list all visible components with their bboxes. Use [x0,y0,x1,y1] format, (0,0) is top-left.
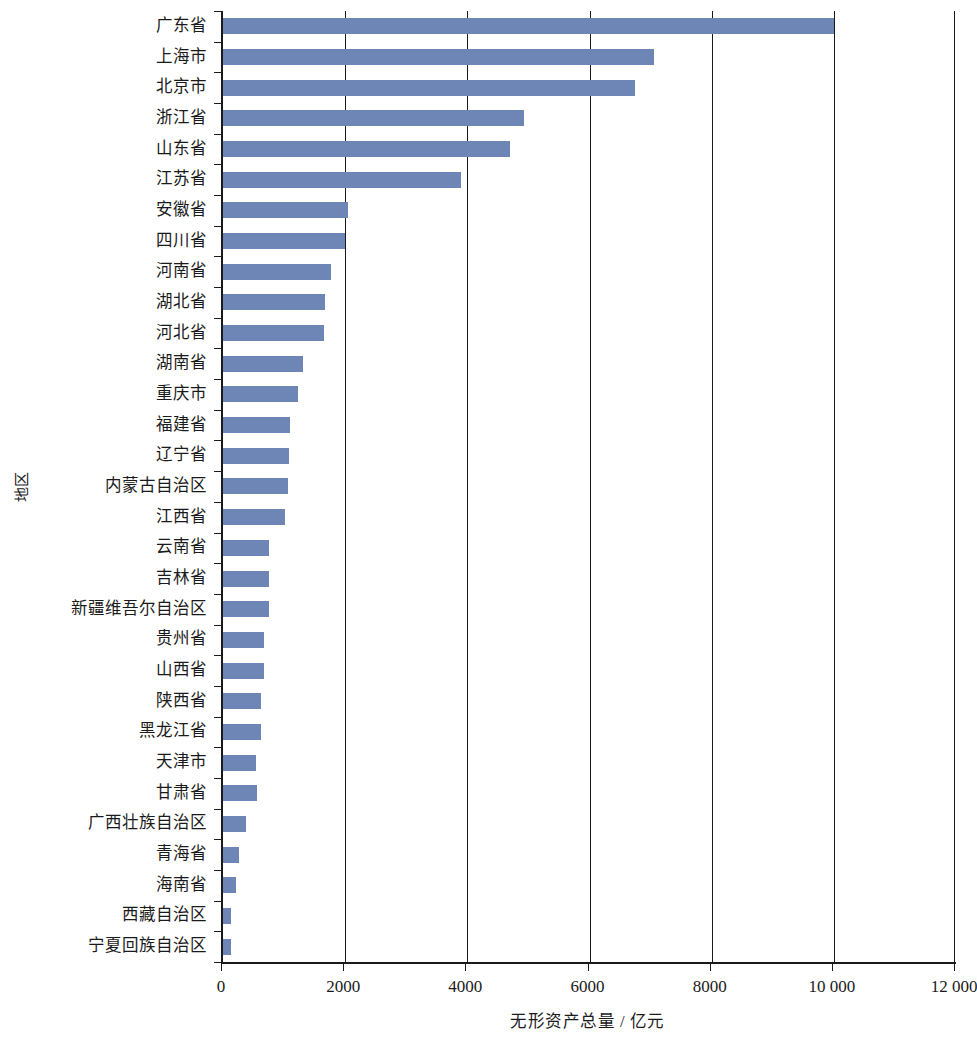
x-axis-tick [588,962,589,971]
y-axis-tick [214,839,223,840]
x-axis-tick-label: 6000 [571,977,605,997]
bar[interactable] [223,49,654,65]
y-axis-tick [214,226,223,227]
bar[interactable] [223,202,348,218]
y-axis-tick [214,348,223,349]
bar[interactable] [223,172,461,188]
category-label: 新疆维吾尔自治区 [17,601,207,618]
bar-row[interactable] [223,594,956,625]
bar-row[interactable] [223,901,956,932]
bar-row[interactable] [223,931,956,962]
bar[interactable] [223,724,261,740]
x-axis-line [221,962,956,964]
y-axis-tick [214,72,223,73]
bar-row[interactable] [223,72,956,103]
x-axis-tick-label: 10 000 [808,977,855,997]
bar-row[interactable] [223,563,956,594]
bar-row[interactable] [223,440,956,471]
x-axis-tick [343,962,344,971]
bar-row[interactable] [223,287,956,318]
bar-row[interactable] [223,103,956,134]
bar[interactable] [223,294,325,310]
bar[interactable] [223,816,246,832]
bar-row[interactable] [223,471,956,502]
bar[interactable] [223,264,331,280]
bar-row[interactable] [223,11,956,42]
bar[interactable] [223,785,257,801]
bar[interactable] [223,571,269,587]
category-label: 陕西省 [17,693,207,710]
bar[interactable] [223,663,264,679]
bar-row[interactable] [223,839,956,870]
bar[interactable] [223,755,256,771]
y-axis-tick [214,440,223,441]
bar[interactable] [223,847,239,863]
bar[interactable] [223,110,524,126]
category-label: 天津市 [17,754,207,771]
x-axis-tick [954,962,955,971]
bar-row[interactable] [223,778,956,809]
bar[interactable] [223,693,261,709]
category-label: 辽宁省 [17,447,207,464]
plot-right-border [954,11,955,962]
bar[interactable] [223,80,635,96]
bar[interactable] [223,448,289,464]
bar[interactable] [223,908,231,924]
category-label: 青海省 [17,846,207,863]
category-label: 上海市 [17,49,207,66]
y-axis-tick [214,931,223,932]
bar[interactable] [223,509,285,525]
bar-row[interactable] [223,717,956,748]
bar[interactable] [223,18,834,34]
bar-row[interactable] [223,533,956,564]
bar[interactable] [223,540,269,556]
y-axis-tick [214,471,223,472]
bar[interactable] [223,386,298,402]
category-label: 云南省 [17,539,207,556]
bar-row[interactable] [223,870,956,901]
y-axis-tick [214,103,223,104]
category-label: 湖北省 [17,294,207,311]
bar[interactable] [223,233,345,249]
bar[interactable] [223,601,269,617]
y-axis-tick [214,686,223,687]
bar-row[interactable] [223,410,956,441]
bar-row[interactable] [223,686,956,717]
category-label: 宁夏回族自治区 [17,938,207,955]
bar-row[interactable] [223,655,956,686]
bar-row[interactable] [223,164,956,195]
bar[interactable] [223,325,324,341]
category-label: 福建省 [17,417,207,434]
bar-row[interactable] [223,226,956,257]
bar[interactable] [223,877,236,893]
x-axis-tick [221,962,222,971]
y-axis-tick [214,809,223,810]
category-label: 江西省 [17,509,207,526]
x-axis-tick-label: 4000 [448,977,482,997]
category-label: 贵州省 [17,631,207,648]
bar[interactable] [223,939,231,955]
bar-row[interactable] [223,348,956,379]
category-label: 山东省 [17,141,207,158]
bar[interactable] [223,632,264,648]
bar[interactable] [223,356,303,372]
category-label: 内蒙古自治区 [17,478,207,495]
category-axis: 广东省上海市北京市浙江省山东省江苏省安徽省四川省河南省湖北省河北省湖南省重庆市福… [26,11,213,962]
bar[interactable] [223,141,510,157]
bar-row[interactable] [223,42,956,73]
bar-row[interactable] [223,809,956,840]
bar-row[interactable] [223,747,956,778]
category-label: 河北省 [17,325,207,342]
bar-row[interactable] [223,134,956,165]
x-axis-tick-label: 0 [217,977,226,997]
bar[interactable] [223,478,288,494]
bar-row[interactable] [223,195,956,226]
bar[interactable] [223,417,290,433]
bar-row[interactable] [223,625,956,656]
bar-row[interactable] [223,379,956,410]
bar-row[interactable] [223,502,956,533]
y-axis-tick [214,410,223,411]
bar-row[interactable] [223,256,956,287]
category-label: 江苏省 [17,171,207,188]
bar-row[interactable] [223,318,956,349]
